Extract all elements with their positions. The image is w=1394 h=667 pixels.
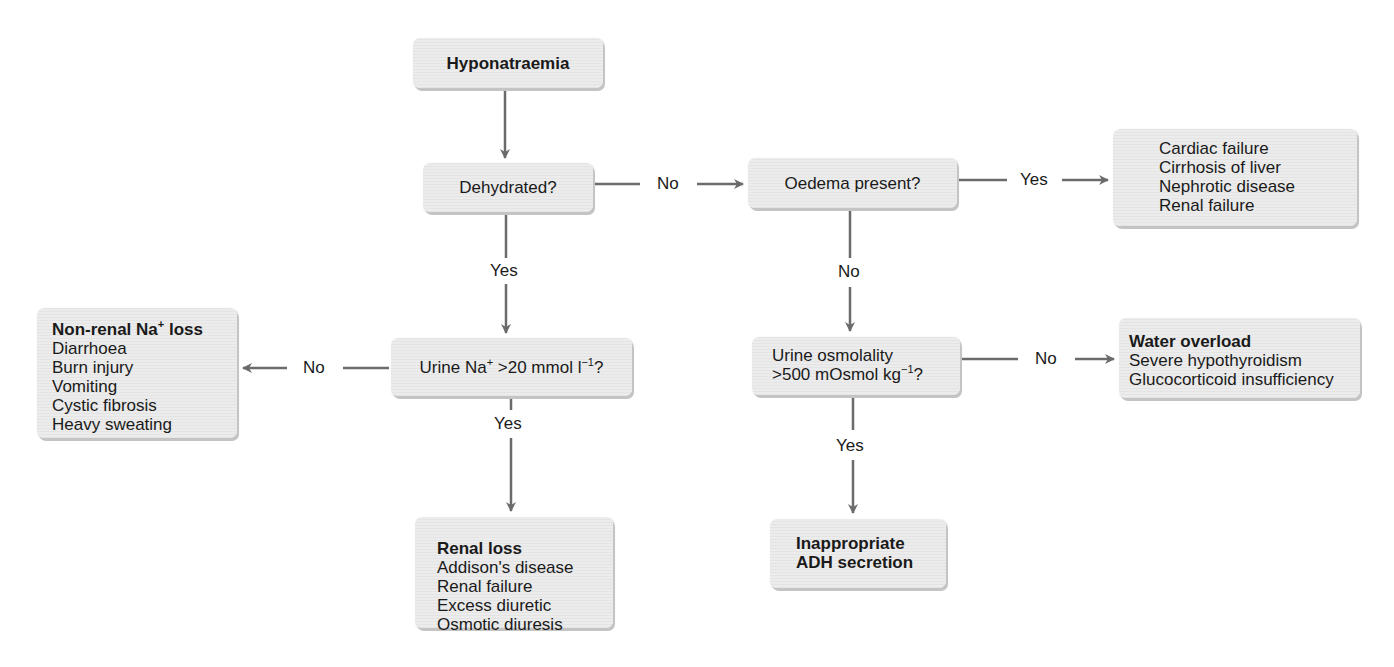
edge-label-urine-osm-no: No	[1035, 349, 1057, 369]
node-urine-na-question: Urine Na+ >20 mmol l−1?	[420, 358, 604, 377]
node-renal-loss-title: Renal loss	[437, 539, 613, 558]
edge-label-dehydrated-yes: Yes	[490, 261, 518, 281]
edge-label-oedema-yes: Yes	[1020, 170, 1048, 190]
edge-label-dehydrated-no: No	[657, 174, 679, 194]
node-dehydrated: Dehydrated?	[423, 163, 593, 212]
node-adh-line1: Inappropriate	[796, 534, 946, 553]
list-item: Severe hypothyroidism	[1129, 351, 1360, 370]
list-item: Burn injury	[52, 358, 237, 377]
edge-label-urine-na-yes: Yes	[494, 414, 522, 434]
node-dehydrated-question: Dehydrated?	[459, 178, 556, 197]
list-item: Vomiting	[52, 377, 237, 396]
node-renal-loss: Renal loss Addison's disease Renal failu…	[415, 517, 613, 628]
list-item: Renal failure	[437, 577, 613, 596]
node-water-overload-title: Water overload	[1129, 332, 1360, 351]
node-oedema: Oedema present?	[748, 158, 957, 208]
node-hyponatraemia-title: Hyponatraemia	[447, 54, 570, 73]
node-urine-osm-line1: Urine osmolality	[772, 346, 960, 365]
list-item: Nephrotic disease	[1159, 177, 1357, 196]
list-item: Osmotic diuresis	[437, 615, 613, 634]
node-hyponatraemia: Hyponatraemia	[413, 38, 603, 88]
edge-label-urine-na-no: No	[303, 358, 325, 378]
list-item: Diarrhoea	[52, 339, 237, 358]
node-urine-osmolality: Urine osmolality >500 mOsmol kg−1?	[752, 337, 960, 395]
node-adh-line2: ADH secretion	[796, 553, 946, 572]
list-item: Excess diuretic	[437, 596, 613, 615]
list-item: Cirrhosis of liver	[1159, 158, 1357, 177]
list-item: Addison's disease	[437, 558, 613, 577]
list-item: Cardiac failure	[1159, 139, 1357, 158]
node-non-renal-loss: Non-renal Na+ loss Diarrhoea Burn injury…	[37, 308, 237, 438]
node-oedema-causes: Cardiac failure Cirrhosis of liver Nephr…	[1113, 129, 1357, 226]
node-urine-osm-line2: >500 mOsmol kg−1?	[772, 365, 960, 384]
node-inappropriate-adh: Inappropriate ADH secretion	[770, 519, 946, 588]
list-item: Cystic fibrosis	[52, 396, 237, 415]
list-item: Heavy sweating	[52, 415, 237, 434]
edge-label-oedema-no: No	[838, 262, 860, 282]
node-non-renal-title: Non-renal Na+ loss	[52, 320, 237, 339]
list-item: Renal failure	[1159, 196, 1357, 215]
list-item: Glucocorticoid insufficiency	[1129, 370, 1360, 389]
node-urine-na: Urine Na+ >20 mmol l−1?	[391, 338, 632, 396]
edge-label-urine-osm-yes: Yes	[836, 436, 864, 456]
node-oedema-question: Oedema present?	[784, 174, 920, 193]
node-water-overload: Water overload Severe hypothyroidism Glu…	[1119, 318, 1360, 398]
